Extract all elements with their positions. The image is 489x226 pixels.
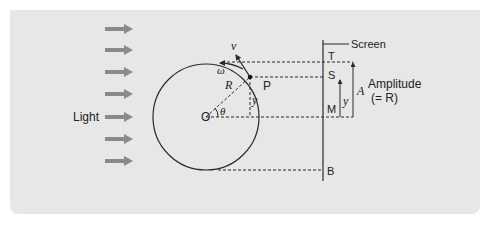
point-p-label: P: [263, 80, 271, 92]
circle-y-label: y: [252, 94, 257, 106]
light-arrow-icon: [105, 67, 133, 77]
radius-r-label: R: [225, 79, 232, 91]
light-arrow-icon: [105, 156, 133, 166]
light-arrows: [105, 24, 133, 166]
omega-label: ω: [217, 65, 225, 76]
point-m-label: M: [327, 104, 336, 115]
point-t-label: T: [328, 51, 335, 62]
light-arrow-icon: [105, 24, 133, 34]
amplitude-label: Amplitude: [368, 78, 421, 90]
screen-label: Screen: [351, 39, 386, 50]
center-o-label: O: [201, 111, 210, 123]
angle-theta-label: θ: [220, 106, 225, 117]
light-label: Light: [73, 111, 99, 123]
screen-y-label: y: [343, 95, 348, 107]
light-arrow-icon: [105, 134, 133, 144]
velocity-v-label: v: [231, 40, 236, 52]
light-arrow-icon: [105, 112, 133, 122]
point-b-label: B: [327, 166, 334, 177]
point-s-label: S: [328, 70, 335, 81]
angle-arc: [215, 108, 218, 117]
light-arrow-icon: [105, 89, 133, 99]
amplitude-note: (= R): [371, 92, 398, 104]
amplitude-a-label: A: [357, 85, 364, 97]
light-arrow-icon: [105, 45, 133, 55]
